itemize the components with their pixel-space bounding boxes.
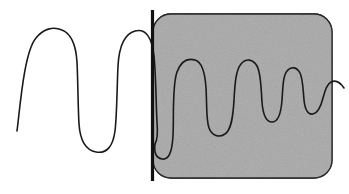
waveform-diagram (0, 0, 349, 194)
shaded-region-texture (153, 14, 332, 178)
shaded-region-group (153, 14, 332, 178)
figure-root (0, 0, 349, 194)
